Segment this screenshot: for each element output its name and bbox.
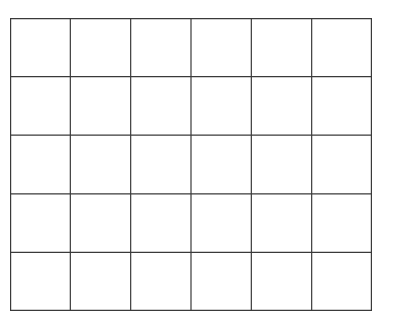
grid-cell (70, 252, 130, 311)
grid-cell (131, 77, 191, 136)
grid-cell (251, 77, 311, 136)
grid-cell (191, 18, 251, 77)
grid-cell (131, 252, 191, 311)
grid-cell (131, 135, 191, 194)
grid-cell (312, 77, 372, 136)
grid-cell (131, 194, 191, 253)
empty-grid (10, 18, 372, 311)
grid-cell (70, 194, 130, 253)
grid-cell (10, 194, 70, 253)
grid-cell (251, 252, 311, 311)
grid-cell (70, 77, 130, 136)
grid-cell (10, 135, 70, 194)
grid-cell (70, 135, 130, 194)
grid-cell (10, 252, 70, 311)
grid-cell (312, 135, 372, 194)
grid-cell (131, 18, 191, 77)
grid-cell (191, 135, 251, 194)
grid-cell (312, 194, 372, 253)
grid-cell (10, 77, 70, 136)
grid-cell (191, 77, 251, 136)
grid-cell (191, 252, 251, 311)
grid-cell (10, 18, 70, 77)
grid-cell (251, 194, 311, 253)
grid-cell (312, 252, 372, 311)
grid-cell (70, 18, 130, 77)
grid-cell (191, 194, 251, 253)
grid-cell (251, 18, 311, 77)
grid-cell (251, 135, 311, 194)
grid-lines (10, 18, 372, 311)
grid-cell (312, 18, 372, 77)
